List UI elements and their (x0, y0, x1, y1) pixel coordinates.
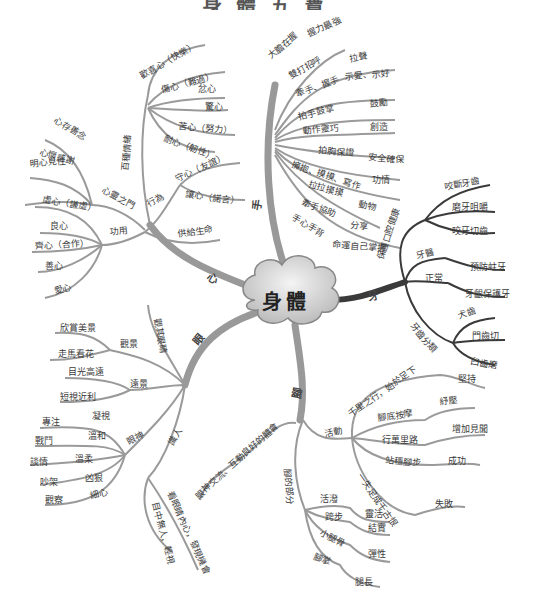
eyes-expression-b: 觀察 (45, 496, 63, 505)
feet-activity-a: 行萬里路 (382, 436, 418, 445)
teeth-item: 門齒切 (472, 332, 499, 341)
heart-function-item: 良心 (50, 222, 68, 231)
teeth-group-label: 正常 (425, 274, 443, 283)
heart-emotion-item: 驚心 (205, 103, 223, 112)
eyes-view-label: 觀景 (120, 340, 138, 349)
branch-feet (295, 325, 303, 420)
eyes-expression-a: 溫柔 (75, 455, 93, 464)
eyes-expression-b: 專注 (42, 418, 60, 427)
branch-eyes (185, 312, 258, 385)
heart-function-item: 善心 (45, 262, 63, 271)
hands-item-b: 分享 (350, 221, 369, 232)
eyes-expression-b: 吵架 (40, 478, 58, 487)
branch-label-feet[interactable]: 腳 (291, 386, 304, 399)
eyes-story-item: 目光高遠 (68, 368, 104, 377)
eyes-view-item: 走馬看花 (58, 350, 94, 359)
eyes-expression-b: 戰鬥 (35, 437, 53, 446)
feet-parts-label: 腳的部分 (282, 468, 294, 505)
feet-parts-b: 腿長 (355, 578, 373, 587)
feet-parts-b: 結實 (368, 524, 386, 533)
eyes-expression-b: 談情 (30, 458, 48, 467)
eyes-story-label: 遠景 (130, 380, 148, 389)
eyes-story-item: 短視近利 (60, 393, 96, 402)
eyes-expression-a: 溫和 (88, 432, 106, 441)
teeth-item: 牙齦保護牙 (465, 290, 510, 299)
teeth-item: 磨牙咀嚼 (452, 203, 488, 212)
feet-parts-b: 彈性 (368, 550, 386, 559)
heart-function-label: 功用 (109, 226, 128, 237)
center-label: 身體 (262, 286, 310, 315)
heart-emotion-item: 忿心 (198, 85, 216, 94)
feet-activity-b: 成功 (448, 457, 466, 466)
feet-parts-a: 跨步 (325, 513, 343, 522)
teeth-item: 預防蛀牙 (470, 263, 506, 272)
hands-item-b: 創造 (370, 123, 388, 132)
eyes-expression-a: 凶狠 (85, 474, 103, 483)
eyes-view-item: 欣賞美景 (60, 324, 96, 333)
hands-item-b: 鼓勵 (369, 98, 388, 109)
feet-parts-a: 活潑 (320, 495, 338, 504)
feet-activity-b: 失敗 (435, 500, 453, 509)
eyes-expression-a: 凝視 (92, 412, 110, 421)
feet-parts-b: 靈活 (365, 510, 383, 519)
hands-item-b: 功情 (372, 176, 390, 185)
branch-label-hands[interactable]: 手 (251, 198, 264, 211)
feet-activity-b: 堅持 (458, 375, 476, 384)
teeth-item: 咬牙切齒 (452, 227, 488, 236)
feet-activity-b: 增加見聞 (452, 425, 488, 434)
